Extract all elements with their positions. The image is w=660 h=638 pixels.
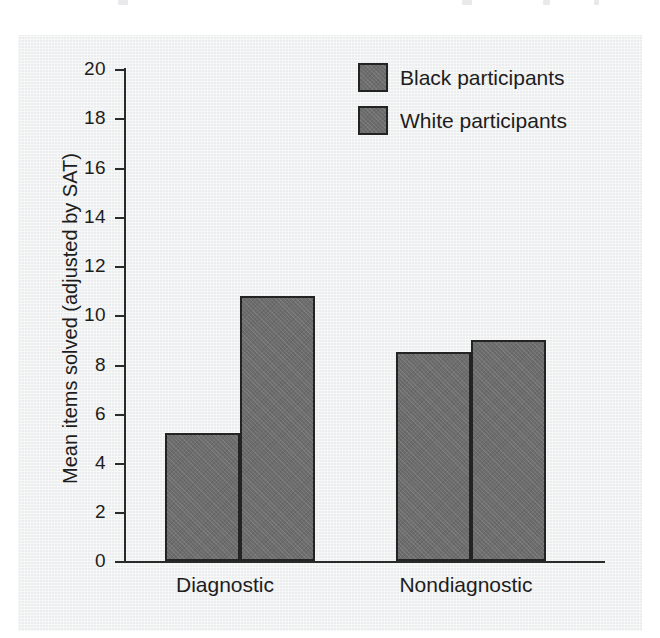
legend-swatch-icon [358, 63, 388, 92]
x-axis-label-diagnostic: Diagnostic [145, 573, 305, 597]
scan-artifact [118, 0, 128, 5]
y-axis-tick [115, 315, 124, 317]
bar-nondiagnostic-black [396, 352, 471, 561]
y-axis-tick [115, 414, 124, 416]
y-axis-tick [115, 69, 124, 71]
y-axis-tick [115, 463, 124, 465]
y-axis-tick [115, 217, 124, 219]
figure-panel: 20 18 16 14 12 10 8 6 4 2 0 [18, 35, 642, 631]
y-axis-tick [115, 266, 124, 268]
bar-diagnostic-white [240, 296, 315, 561]
scan-artifact [462, 0, 472, 5]
legend-label: White participants [400, 109, 567, 133]
y-axis-tick-label: 20 [60, 59, 106, 78]
y-axis-tick [115, 168, 124, 170]
legend-item-white-participants: White participants [358, 106, 567, 135]
legend-label: Black participants [400, 66, 565, 90]
scan-artifact [594, 0, 599, 5]
legend-swatch-icon [358, 106, 388, 135]
y-axis-tick-label: 0 [60, 551, 106, 570]
y-axis-tick [115, 561, 124, 563]
legend: Black participants White participants [358, 63, 567, 149]
y-axis-tick [115, 512, 124, 514]
y-axis-tick [115, 365, 124, 367]
y-axis-title: Mean items solved (adjusted by SAT) [59, 109, 82, 529]
y-axis-tick [115, 118, 124, 120]
x-axis-line [124, 561, 605, 563]
scan-artifact [543, 0, 550, 5]
legend-item-black-participants: Black participants [358, 63, 567, 92]
x-axis-label-nondiagnostic: Nondiagnostic [366, 573, 566, 597]
scanned-figure-page: 20 18 16 14 12 10 8 6 4 2 0 [0, 0, 660, 638]
bar-nondiagnostic-white [471, 340, 546, 561]
bar-diagnostic-black [165, 433, 240, 561]
